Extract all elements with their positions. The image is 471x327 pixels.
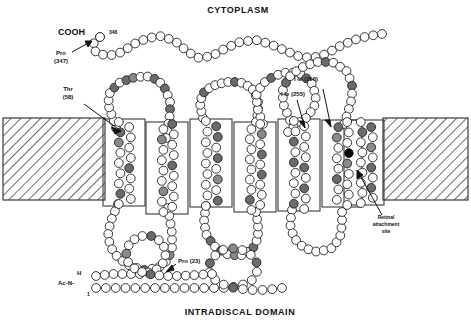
residue-circle	[289, 158, 298, 167]
residue-circle	[114, 179, 123, 188]
nterminus-residue-1-label: 1	[87, 292, 90, 297]
residue-circle	[201, 159, 210, 168]
residue-circle	[101, 284, 110, 293]
residue-circle	[358, 148, 367, 157]
residue-circle	[343, 159, 352, 168]
residue-circle	[235, 38, 244, 47]
residue-circle	[289, 199, 298, 208]
ile255-label: I le (255)	[281, 91, 305, 97]
residue-circle	[256, 180, 265, 189]
residue-circle	[286, 48, 295, 57]
residue-circle	[116, 148, 125, 157]
residue-circle	[169, 151, 178, 160]
residue-circle	[168, 161, 177, 170]
residue-circle	[159, 208, 168, 217]
residue-circle	[164, 272, 173, 281]
residue-circle	[151, 284, 160, 293]
residue-circle	[155, 271, 164, 280]
lipid-bilayer	[3, 118, 468, 200]
residue-circle	[344, 149, 353, 158]
residue-circle	[219, 245, 228, 254]
ile256-label: I le (256)	[294, 76, 318, 82]
residue-circle	[203, 170, 212, 179]
residue-circle	[336, 231, 345, 240]
residue-circle	[114, 138, 123, 147]
residue-circle	[239, 285, 248, 294]
retinal-attachment-line2: attachment	[360, 222, 412, 227]
residue-circle	[125, 184, 134, 193]
residue-circle	[253, 267, 262, 276]
residue-circle	[194, 53, 203, 62]
residue-circle	[261, 38, 270, 47]
residue-circle	[238, 246, 247, 255]
residue-circle	[190, 284, 199, 293]
residue-circle	[247, 185, 256, 194]
cooh-label: COOH	[58, 28, 85, 37]
residue-circle	[247, 125, 256, 134]
residue-circle	[356, 199, 365, 208]
residue-circle	[343, 138, 352, 147]
residue-circle	[277, 45, 286, 54]
residue-circle	[268, 285, 277, 294]
residue-circle	[203, 149, 212, 158]
residue-circle	[158, 259, 167, 268]
residue-chain	[89, 30, 386, 295]
residue-circle	[335, 42, 344, 51]
residue-circle	[160, 284, 169, 293]
residue-circle	[368, 173, 377, 182]
residue-circle	[367, 143, 376, 152]
residue-circle	[247, 165, 256, 174]
residue-circle	[170, 284, 179, 293]
residue-circle	[168, 182, 177, 191]
residue-circle	[157, 197, 166, 206]
residue-circle	[131, 39, 140, 48]
residue-circle	[289, 117, 298, 126]
residue-circle	[168, 243, 177, 252]
pro23-label: Pro (23)	[178, 258, 200, 264]
residue-circle	[294, 52, 303, 61]
residue-circle	[245, 135, 254, 144]
residue-circle	[166, 219, 175, 228]
helix-box-6	[322, 120, 362, 207]
residue-circle	[181, 271, 190, 280]
residue-circle	[300, 163, 309, 172]
residue-circle	[157, 156, 166, 165]
residue-circle	[257, 190, 266, 199]
residue-circle	[122, 249, 131, 258]
residue-circle	[300, 205, 309, 214]
residue-circle	[358, 189, 367, 198]
residue-circle	[344, 170, 353, 179]
residue-circle	[343, 118, 352, 127]
residue-circle	[258, 286, 267, 295]
thr58-label: Thr	[54, 86, 82, 92]
residue-circle	[356, 118, 365, 127]
retinal-attachment-line3: site	[360, 229, 412, 234]
residue-circle	[247, 276, 256, 285]
residue-circle	[257, 150, 266, 159]
pro347-label: Pro	[46, 50, 76, 56]
residue-circle	[227, 41, 236, 50]
residue-circle	[159, 146, 168, 155]
residue-circle	[245, 175, 254, 184]
residue-circle	[252, 36, 261, 45]
residue-circle	[213, 196, 222, 205]
residue-circle	[212, 122, 221, 131]
residue-circle	[210, 284, 219, 293]
residue-circle	[256, 201, 265, 210]
residue-circle	[369, 31, 378, 40]
residue-circle	[213, 154, 222, 163]
residue-circle	[125, 164, 134, 173]
residue-circle	[92, 272, 101, 281]
residue-circle	[100, 271, 109, 280]
residue-circle	[245, 155, 254, 164]
residue-circle	[157, 177, 166, 186]
residue-circle	[291, 168, 300, 177]
residue-circle	[301, 153, 310, 162]
residue-circle	[201, 180, 210, 189]
residue-circle	[138, 268, 147, 277]
intradiscal-domain-label: INTRADISCAL DOMAIN	[176, 308, 304, 317]
residue-circle	[201, 202, 210, 211]
residue-circle	[252, 258, 261, 267]
residue-circle	[116, 189, 125, 198]
residue-circle	[147, 33, 156, 42]
